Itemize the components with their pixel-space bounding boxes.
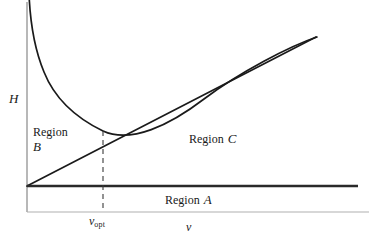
axes-group	[27, 2, 369, 212]
region-a-word: Region	[165, 193, 200, 207]
y-axis-label: H	[9, 92, 18, 106]
data-series-group	[27, 0, 358, 212]
van-deemter-curve	[29, 0, 317, 135]
vopt-subscript: opt	[94, 220, 105, 229]
region-b-label: Region B	[33, 123, 68, 153]
vopt-label: vopt	[89, 215, 105, 229]
region-a-letter: A	[204, 192, 212, 207]
c-term-asymptote-line	[27, 37, 316, 186]
x-axis-label: v	[186, 221, 191, 234]
region-c-label: Region C	[189, 130, 236, 147]
region-c-letter: C	[228, 131, 237, 146]
region-a-label: Region A	[165, 191, 212, 208]
region-c-word: Region	[189, 132, 224, 146]
region-b-word: Region	[33, 125, 68, 139]
van-deemter-figure: H v Region B Region C Region A vopt	[0, 0, 369, 240]
region-b-letter: B	[33, 140, 68, 154]
